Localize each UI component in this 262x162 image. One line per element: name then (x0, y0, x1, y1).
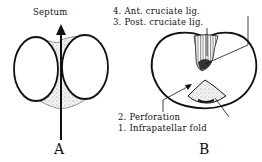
left-condyle (14, 37, 58, 101)
perforation-label: 2. Perforation (118, 112, 180, 122)
ant-cruciate-label: 4. Ant. cruciate lig. (113, 6, 200, 16)
arrow-head-icon (56, 24, 66, 35)
figure-b-drawing (152, 16, 256, 117)
figure-a-label: A (54, 141, 64, 157)
right-condyle (62, 35, 108, 99)
post-cruciate-label: 3. Post. cruciate lig. (113, 17, 203, 27)
figure-a-drawing (14, 24, 108, 140)
septum-label: Septum (33, 7, 67, 17)
infrapatellar-fold-label: 1. Infrapatellar fold (118, 123, 207, 133)
figure-b-label: B (199, 141, 210, 157)
